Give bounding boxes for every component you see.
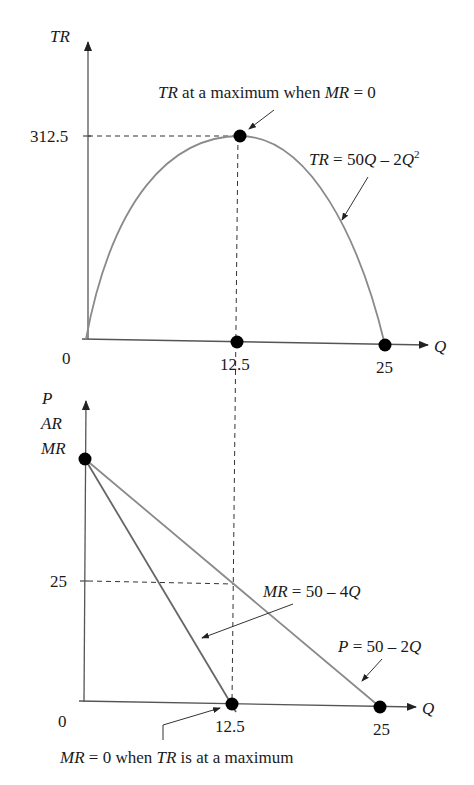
p-label-pointer-arrow	[362, 659, 382, 681]
mr-zero-pointer-arrow	[163, 708, 220, 740]
tr-max-pointer-arrow	[249, 110, 274, 129]
tr-curve-label: TR = 50Q – 2Q2	[309, 148, 420, 169]
tr-max-guide-vertical	[232, 136, 238, 704]
armr-x-axis-label: Q	[422, 699, 434, 718]
tr-x-tick-end-label: 25	[376, 358, 393, 377]
tr-max-annotation: TR at a maximum when MR = 0	[158, 83, 376, 102]
armr-y-label-p: P	[41, 389, 52, 408]
demand-equation-label: P = 50 – 2Q	[337, 637, 421, 656]
mr-zero-note: MR = 0 when TR is at a maximum	[59, 748, 293, 767]
tr-y-tick-label: 312.5	[30, 127, 68, 146]
tr-q12-point	[231, 336, 244, 349]
armr-origin-label: 0	[58, 712, 67, 731]
armr-y-label-ar: AR	[40, 414, 62, 433]
armr-x-tick-mid-label: 12.5	[215, 717, 245, 736]
mr-equation-label: MR = 50 – 4Q	[262, 582, 360, 601]
armr-x-tick-end-label: 25	[373, 720, 390, 739]
armr-x-axis	[79, 701, 416, 707]
ar-mr-chart: P AR MR 25 0 12.5 25 Q MR = 50 – 4Q P = …	[40, 389, 434, 767]
tr-curve-pointer-arrow	[342, 177, 368, 220]
armr-y-tick-label: 25	[50, 572, 67, 591]
armr-y-label-mr: MR	[40, 439, 66, 458]
revenue-diagram: TR 312.5 0 12.5 25 Q TR at a maximum whe…	[0, 0, 474, 785]
tr-x-tick-mid-label: 12.5	[220, 355, 250, 374]
tr-origin-label: 0	[62, 349, 71, 368]
armr-y-axis	[84, 401, 86, 702]
tr-y-axis-label: TR	[50, 27, 70, 46]
armr-25-guide	[88, 581, 234, 584]
tr-x-axis	[82, 339, 428, 345]
armr-intercept-point	[79, 453, 92, 466]
tr-chart: TR 312.5 0 12.5 25 Q TR at a maximum whe…	[30, 27, 446, 704]
tr-q25-point	[379, 339, 392, 352]
tr-max-point	[234, 130, 247, 143]
mr-zero-point	[226, 698, 239, 711]
mr-line	[85, 459, 236, 712]
mr-label-pointer-arrow	[202, 604, 293, 638]
tr-x-axis-label: Q	[434, 337, 446, 356]
demand-zero-point	[374, 701, 387, 714]
